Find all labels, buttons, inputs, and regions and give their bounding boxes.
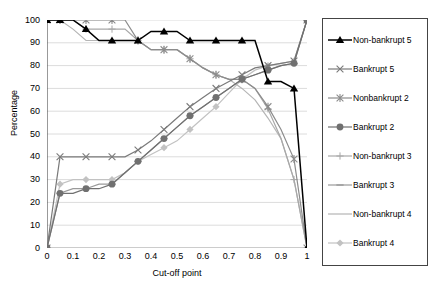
legend-label: Bankrupt 3 [353, 180, 394, 190]
legend-label: Bankrupt 2 [353, 122, 394, 132]
x-tick-label: 0.2 [86, 252, 112, 261]
legend-label: Non-bankrupt 4 [353, 209, 412, 219]
y-tick-label: 70 [14, 84, 40, 93]
legend-item[interactable]: Bankrupt 4 [327, 228, 424, 257]
y-tick-label: 60 [14, 107, 40, 116]
y-tick-label: 10 [14, 221, 40, 230]
y-tick-label: 90 [14, 38, 40, 47]
legend-label: Non-bankrupt 5 [353, 35, 412, 45]
legend-marker-icon [327, 149, 353, 163]
legend-marker-icon [327, 120, 353, 134]
series-canvas [47, 20, 307, 248]
y-tick-label: 30 [14, 175, 40, 184]
x-tick-label: 0.8 [242, 252, 268, 261]
legend-marker-icon [327, 236, 353, 250]
legend-marker-icon [327, 33, 353, 47]
legend-marker-icon [327, 178, 353, 192]
y-tick-label: 100 [14, 16, 40, 25]
legend-item[interactable]: Nonbankrupt 2 [327, 83, 424, 112]
x-tick-label: 0.1 [60, 252, 86, 261]
y-tick-label: 80 [14, 61, 40, 70]
legend-marker-icon [327, 91, 353, 105]
chart-legend: Non-bankrupt 5Bankrupt 5Nonbankrupt 2Ban… [322, 18, 428, 266]
legend-label: Non-bankrupt 3 [353, 151, 412, 161]
legend-label: Bankrupt 5 [353, 64, 394, 74]
x-tick-label: 0.3 [112, 252, 138, 261]
legend-item[interactable]: Non-bankrupt 3 [327, 141, 424, 170]
legend-item[interactable]: Bankrupt 2 [327, 112, 424, 141]
x-tick-label: 0.9 [268, 252, 294, 261]
y-tick-label: 20 [14, 198, 40, 207]
x-tick-label: 0.7 [216, 252, 242, 261]
x-tick-label: 1 [294, 252, 320, 261]
plot-area [47, 20, 307, 248]
x-tick-label: 0.4 [138, 252, 164, 261]
chart-container: Percentage Cut-off point 010203040506070… [0, 0, 432, 285]
x-tick-label: 0 [34, 252, 60, 261]
y-tick-label: 50 [14, 130, 40, 139]
x-tick-label: 0.6 [190, 252, 216, 261]
legend-item[interactable]: Bankrupt 5 [327, 54, 424, 83]
x-tick-label: 0.5 [164, 252, 190, 261]
legend-marker-icon [327, 207, 353, 221]
legend-item[interactable]: Bankrupt 3 [327, 170, 424, 199]
x-axis-title: Cut-off point [47, 268, 307, 278]
legend-label: Nonbankrupt 2 [353, 93, 409, 103]
legend-item[interactable]: Non-bankrupt 4 [327, 199, 424, 228]
y-tick-label: 40 [14, 152, 40, 161]
legend-label: Bankrupt 4 [353, 238, 394, 248]
legend-item[interactable]: Non-bankrupt 5 [327, 25, 424, 54]
legend-marker-icon [327, 62, 353, 76]
